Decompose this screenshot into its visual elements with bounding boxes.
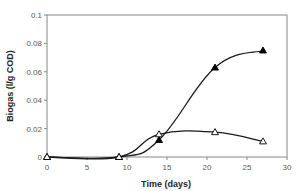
series-line (47, 51, 263, 159)
x-axis-title: Time (days) (141, 179, 191, 189)
filled-triangle-marker (260, 47, 267, 53)
x-tick-label: 5 (85, 163, 90, 172)
x-tick-label: 20 (203, 163, 212, 172)
x-tick-label: 0 (45, 163, 50, 172)
y-tick-label: 0 (38, 153, 43, 162)
y-axis: 00.020.040.060.080.1 (26, 11, 47, 162)
y-axis-title: Biogas (l/g COD) (5, 50, 15, 122)
y-tick-label: 0.08 (26, 39, 42, 48)
y-tick-label: 0.1 (31, 11, 43, 20)
y-tick-label: 0.02 (26, 125, 42, 134)
data-series (44, 47, 267, 160)
x-tick-label: 25 (243, 163, 252, 172)
x-tick-label: 10 (123, 163, 132, 172)
x-tick-label: 15 (163, 163, 172, 172)
y-tick-label: 0.06 (26, 68, 42, 77)
x-tick-label: 30 (283, 163, 292, 172)
biogas-chart: 00.020.040.060.080.1 051015202530 Time (… (0, 0, 302, 191)
plot-border (47, 15, 287, 157)
y-tick-label: 0.04 (26, 96, 42, 105)
series-filled-triangle (44, 47, 267, 160)
series-line (47, 131, 263, 159)
plot-area (47, 15, 287, 157)
